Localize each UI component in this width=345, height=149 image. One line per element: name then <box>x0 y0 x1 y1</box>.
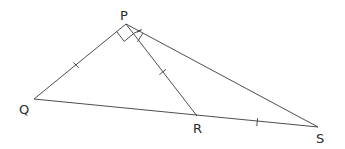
angle-marker-rps-edge <box>137 33 143 42</box>
label-p: P <box>120 8 128 23</box>
label-s: S <box>316 131 324 146</box>
right-angle-marker-qpr <box>117 32 134 42</box>
segment-pr <box>126 24 197 116</box>
segment-qs <box>34 99 318 127</box>
label-q: Q <box>19 102 29 117</box>
label-r: R <box>193 121 202 136</box>
segment-ps <box>126 24 318 127</box>
segment-pq <box>34 24 126 99</box>
tick-mark-rs <box>257 118 258 126</box>
triangle-diagram: P Q R S <box>0 0 345 149</box>
